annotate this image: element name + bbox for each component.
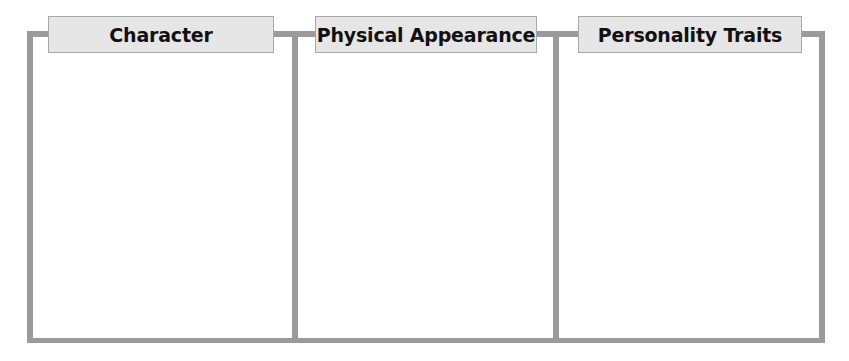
- column-divider: [553, 31, 559, 343]
- graphic-organizer: Character Physical Appearance Personalit…: [0, 0, 849, 361]
- header-physical-appearance: Physical Appearance: [315, 16, 537, 53]
- column-personality-traits-area[interactable]: [559, 37, 819, 338]
- frame-bottom-border: [27, 338, 825, 343]
- header-personality-traits: Personality Traits: [578, 16, 802, 53]
- frame-left-border: [27, 31, 33, 343]
- header-physical-appearance-label: Physical Appearance: [317, 24, 536, 46]
- header-character: Character: [48, 16, 274, 53]
- header-personality-traits-label: Personality Traits: [598, 24, 782, 46]
- header-character-label: Character: [109, 24, 212, 46]
- column-physical-appearance-area[interactable]: [298, 37, 553, 338]
- frame-right-border: [819, 31, 825, 343]
- column-character-area[interactable]: [33, 37, 292, 338]
- column-divider: [292, 31, 298, 343]
